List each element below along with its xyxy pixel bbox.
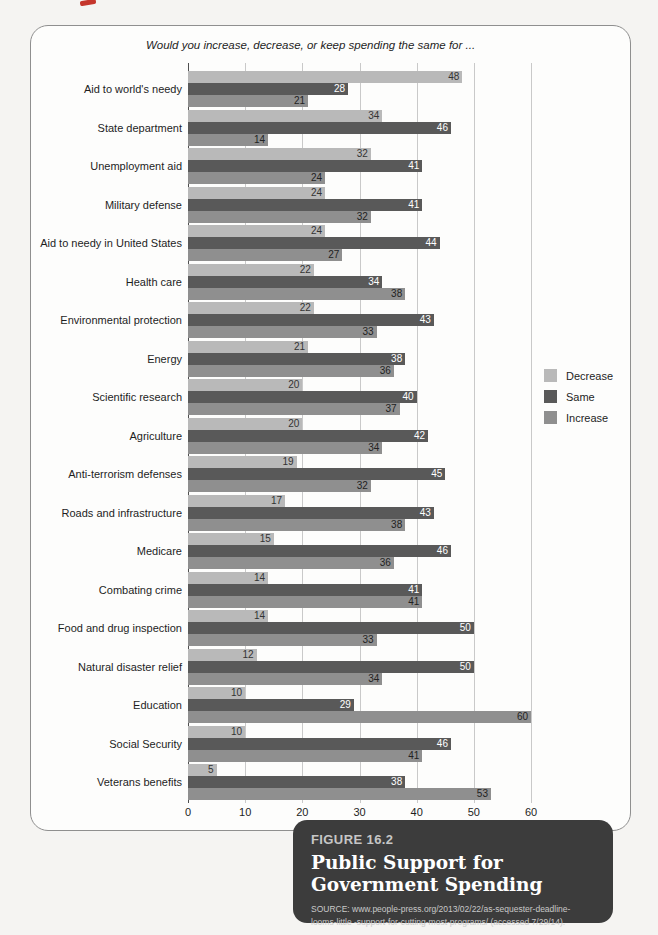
bar-decrease: 14 <box>188 572 268 584</box>
bar-decrease: 34 <box>188 110 382 122</box>
bar-value-label: 34 <box>368 110 382 122</box>
bar-value-label: 22 <box>300 264 314 276</box>
bar-increase: 27 <box>188 249 342 261</box>
bar-decrease: 17 <box>188 495 285 507</box>
bar-increase: 38 <box>188 519 405 531</box>
bar-value-label: 34 <box>368 673 382 685</box>
category-label: Anti-terrorism defenses <box>31 466 182 482</box>
category-label: Aid to needy in United States <box>31 235 182 251</box>
bar-decrease: 12 <box>188 649 257 661</box>
bar-decrease: 15 <box>188 533 274 545</box>
category-label: Social Security <box>31 736 182 752</box>
bar-value-label: 41 <box>408 160 422 172</box>
bar-value-label: 15 <box>260 533 274 545</box>
bar-value-label: 40 <box>403 391 417 403</box>
category-label: Education <box>31 697 182 713</box>
bar-value-label: 19 <box>282 456 296 468</box>
bar-value-label: 38 <box>391 519 405 531</box>
bar-same: 50 <box>188 622 474 634</box>
category-label: Scientific research <box>31 389 182 405</box>
legend-item: Decrease <box>544 369 613 382</box>
category-label: Agriculture <box>31 428 182 444</box>
bar-increase: 34 <box>188 673 382 685</box>
bar-decrease: 20 <box>188 418 302 430</box>
bar-value-label: 46 <box>437 122 451 134</box>
bar-value-label: 14 <box>254 572 268 584</box>
bar-decrease: 21 <box>188 341 308 353</box>
bar-increase: 24 <box>188 172 325 184</box>
bar-value-label: 29 <box>340 699 354 711</box>
bar-value-label: 34 <box>368 442 382 454</box>
bar-same: 44 <box>188 237 440 249</box>
legend-label: Increase <box>566 412 608 424</box>
figure-source: SOURCE: www.people-press.org/2013/02/22/… <box>311 903 595 929</box>
bar-value-label: 42 <box>414 430 428 442</box>
bar-increase: 14 <box>188 134 268 146</box>
plot-area: 4828213446143241242441322444272234382243… <box>188 63 531 803</box>
bar-increase: 36 <box>188 557 394 569</box>
bar-increase: 32 <box>188 211 371 223</box>
caption-panel: FIGURE 16.2 Public Support for Governmen… <box>293 820 613 923</box>
bar-value-label: 37 <box>385 403 399 415</box>
bar-same: 46 <box>188 545 451 557</box>
legend-label: Decrease <box>566 370 613 382</box>
legend: DecreaseSameIncrease <box>544 369 613 432</box>
bar-value-label: 17 <box>271 495 285 507</box>
bar-value-label: 22 <box>300 302 314 314</box>
bar-value-label: 60 <box>517 711 531 723</box>
bar-value-label: 36 <box>380 557 394 569</box>
bar-value-label: 50 <box>460 622 474 634</box>
bar-value-label: 21 <box>294 341 308 353</box>
bar-value-label: 46 <box>437 545 451 557</box>
legend-item: Increase <box>544 411 613 424</box>
bar-value-label: 41 <box>408 584 422 596</box>
bar-value-label: 41 <box>408 750 422 762</box>
bar-value-label: 38 <box>391 353 405 365</box>
legend-swatch-icon <box>544 390 557 403</box>
bar-value-label: 43 <box>420 314 434 326</box>
bar-value-label: 33 <box>363 326 377 338</box>
figure-title: Public Support for Government Spending <box>311 852 595 896</box>
bar-value-label: 24 <box>311 225 325 237</box>
bar-decrease: 5 <box>188 764 217 776</box>
bar-value-label: 45 <box>431 468 445 480</box>
bar-same: 40 <box>188 391 417 403</box>
bar-value-label: 48 <box>448 71 462 83</box>
bar-increase: 38 <box>188 288 405 300</box>
category-label: Health care <box>31 274 182 290</box>
category-label: Unemployment aid <box>31 158 182 174</box>
category-label: Aid to world's needy <box>31 81 182 97</box>
bar-same: 34 <box>188 276 382 288</box>
bar-value-label: 32 <box>357 211 371 223</box>
bar-increase: 36 <box>188 365 394 377</box>
category-label: Food and drug inspection <box>31 620 182 636</box>
bar-value-label: 44 <box>425 237 439 249</box>
bar-value-label: 21 <box>294 95 308 107</box>
category-labels: Aid to world's needyState departmentUnem… <box>31 63 182 803</box>
bar-same: 43 <box>188 314 434 326</box>
bar-same: 28 <box>188 83 348 95</box>
bar-value-label: 10 <box>231 726 245 738</box>
bar-decrease: 32 <box>188 148 371 160</box>
axis-tick-label: 30 <box>345 806 375 818</box>
bar-value-label: 20 <box>288 379 302 391</box>
figure-label: FIGURE 16.2 <box>311 832 595 847</box>
bar-same: 46 <box>188 738 451 750</box>
axis-tick-label: 40 <box>402 806 432 818</box>
bar-value-label: 20 <box>288 418 302 430</box>
bar-same: 38 <box>188 353 405 365</box>
bar-increase: 53 <box>188 788 491 800</box>
bar-decrease: 22 <box>188 264 314 276</box>
category-label: Medicare <box>31 543 182 559</box>
bar-value-label: 41 <box>408 596 422 608</box>
bar-value-label: 38 <box>391 288 405 300</box>
chart-panel: Would you increase, decrease, or keep sp… <box>30 25 631 831</box>
bar-value-label: 46 <box>437 738 451 750</box>
category-label: Roads and infrastructure <box>31 505 182 521</box>
bar-increase: 21 <box>188 95 308 107</box>
bar-value-label: 43 <box>420 507 434 519</box>
bar-decrease: 14 <box>188 610 268 622</box>
bar-same: 50 <box>188 661 474 673</box>
bar-value-label: 28 <box>334 83 348 95</box>
bar-value-label: 12 <box>242 649 256 661</box>
